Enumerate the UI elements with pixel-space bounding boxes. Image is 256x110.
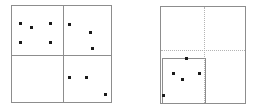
data-point <box>68 76 71 79</box>
quadrant-partition-panel <box>11 5 112 103</box>
horizontal-divider <box>12 55 111 56</box>
vertical-divider <box>63 6 64 102</box>
data-point <box>89 31 92 34</box>
data-point <box>181 78 184 81</box>
data-point <box>198 72 201 75</box>
lower-left-cell <box>162 58 206 104</box>
data-point <box>104 93 107 96</box>
horizontal-guide <box>161 50 245 51</box>
data-point <box>49 41 52 44</box>
data-point <box>85 76 88 79</box>
data-point <box>19 22 22 25</box>
data-point <box>30 26 33 29</box>
data-point <box>185 57 188 60</box>
data-point <box>162 94 165 97</box>
recursive-subdivision-panel <box>160 6 246 104</box>
data-point <box>49 22 52 25</box>
data-point <box>172 72 175 75</box>
figure-root <box>0 0 256 110</box>
data-point <box>19 41 22 44</box>
data-point <box>91 47 94 50</box>
data-point <box>68 23 71 26</box>
